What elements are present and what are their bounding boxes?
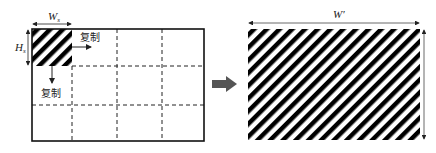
source-tile (32, 29, 72, 66)
copy-down-label: 复制 (41, 87, 61, 99)
tile-width-label: Ws (48, 10, 60, 24)
tile-height-label: Hs (14, 41, 26, 55)
tiling-diagram: Ws Hs 复制 复制 W′ (0, 0, 436, 153)
tiled-result-pattern (248, 29, 420, 140)
transition-arrow-icon (212, 76, 237, 92)
right-panel: W′ (248, 8, 424, 140)
copy-right-label: 复制 (80, 31, 100, 43)
result-width-label: W′ (333, 8, 345, 20)
left-panel: Ws Hs 复制 复制 (14, 10, 204, 141)
